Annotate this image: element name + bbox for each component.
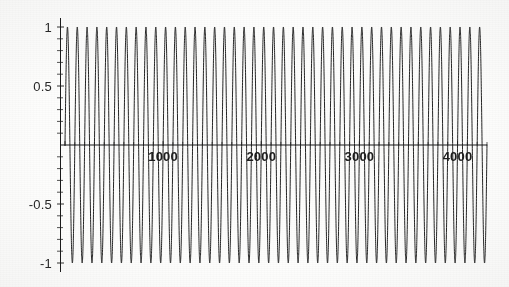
chart-figure: 10.5-0.5-1 1000200030004000 xyxy=(0,0,509,287)
x-tick-label: 2000 xyxy=(246,149,276,164)
x-tick-label: 1000 xyxy=(148,149,178,164)
x-tick-label: 3000 xyxy=(345,149,375,164)
y-tick-label: -0.5 xyxy=(8,197,52,212)
x-tick-label: 4000 xyxy=(443,149,473,164)
plot-canvas xyxy=(0,0,509,287)
y-tick-label: 1 xyxy=(8,20,52,35)
y-tick-label: -1 xyxy=(8,256,52,271)
y-tick-label: 0.5 xyxy=(8,79,52,94)
